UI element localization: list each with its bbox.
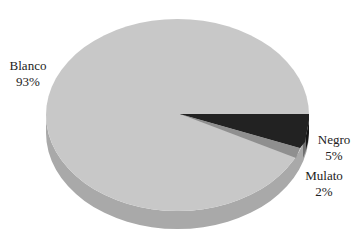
label-mulato: Mulato 2%	[300, 168, 348, 200]
pie-chart	[0, 0, 360, 241]
label-blanco-name: Blanco	[4, 58, 52, 74]
label-negro: Negro 5%	[312, 132, 356, 164]
label-mulato-name: Mulato	[300, 168, 348, 184]
label-blanco: Blanco 93%	[4, 58, 52, 90]
label-negro-pct: 5%	[312, 148, 356, 164]
label-negro-name: Negro	[312, 132, 356, 148]
label-blanco-pct: 93%	[4, 74, 52, 90]
label-mulato-pct: 2%	[300, 184, 348, 200]
